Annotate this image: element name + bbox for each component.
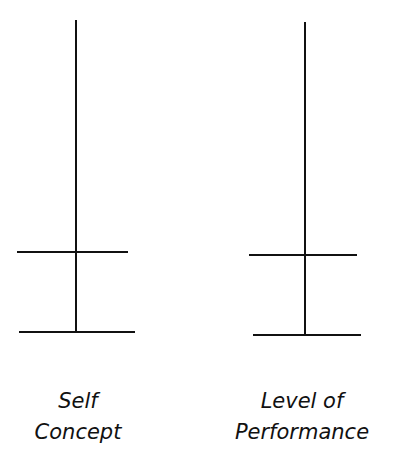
label-line: Level of	[222, 386, 382, 417]
label-line: Concept	[8, 417, 148, 448]
label-self-concept: Self Concept	[8, 386, 148, 448]
label-line: Performance	[222, 417, 382, 448]
diagram-canvas: Self Concept Level of Performance	[0, 0, 395, 466]
scale-level-of-performance	[249, 22, 361, 335]
label-line: Self	[8, 386, 148, 417]
scale-self-concept	[17, 20, 135, 332]
label-level-of-performance: Level of Performance	[222, 386, 382, 448]
